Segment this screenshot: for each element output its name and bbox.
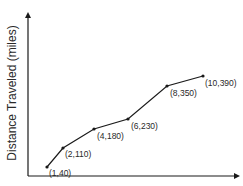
line-chart: (1,40)(2,110)(4,180)(6,230)(8,350)(10,39… (0, 0, 243, 186)
data-point-label: (10,390) (205, 78, 237, 88)
data-point-label: (6,230) (131, 121, 158, 131)
data-point-label: (2,110) (65, 149, 91, 159)
data-point (92, 127, 95, 130)
data-point-label: (1,40) (49, 168, 71, 178)
data-point-label: (4,180) (97, 131, 124, 141)
data-point-label: (8,350) (170, 88, 197, 98)
data-point-labels: (1,40)(2,110)(4,180)(6,230)(8,350)(10,39… (49, 78, 237, 178)
data-point (126, 117, 129, 120)
data-point (165, 84, 168, 87)
